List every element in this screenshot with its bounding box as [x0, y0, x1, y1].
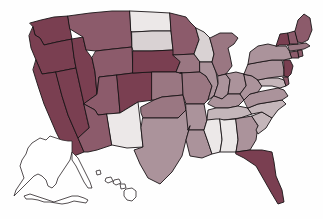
hawaii-island-big: [124, 188, 136, 201]
state-AL[interactable]: [220, 119, 238, 152]
state-AR[interactable]: [186, 104, 207, 130]
state-SD[interactable]: [132, 31, 173, 51]
state-CT[interactable]: [290, 51, 299, 58]
hawaii-island-4: [120, 184, 126, 189]
us-choropleth-map-figure: [0, 0, 323, 219]
state-ND[interactable]: [130, 11, 171, 32]
state-RI[interactable]: [298, 50, 303, 57]
state-HI[interactable]: [96, 170, 101, 175]
us-map-svg: [0, 0, 323, 219]
